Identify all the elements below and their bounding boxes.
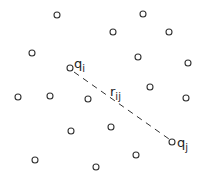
label-qi: qi [74, 56, 85, 74]
particle-circle [15, 94, 21, 100]
label-rij: rij [110, 84, 121, 102]
particle-circle [68, 128, 74, 134]
particle-circle [135, 54, 141, 60]
particle-circle [140, 11, 146, 17]
label-qj: qj [177, 135, 188, 153]
particle-circle [166, 29, 172, 35]
particle-circle [47, 93, 53, 99]
particle-diagram: qi rij qj [0, 0, 206, 181]
distance-line-rij [74, 72, 169, 139]
particle-circle [85, 96, 91, 102]
particle-circle [32, 157, 38, 163]
particle-circle [108, 124, 114, 130]
particle-circle [183, 95, 189, 101]
particle-circle [185, 60, 191, 66]
particle-circle [54, 12, 60, 18]
particle-circle [147, 84, 153, 90]
particle-circle [133, 152, 139, 158]
particle-qj [169, 139, 175, 145]
diagram-canvas: qi rij qj [0, 0, 206, 181]
particle-qi [67, 65, 73, 71]
particle-circle [29, 50, 35, 56]
particle-circle [110, 29, 116, 35]
particles-group [15, 11, 191, 170]
particle-circle [93, 164, 99, 170]
